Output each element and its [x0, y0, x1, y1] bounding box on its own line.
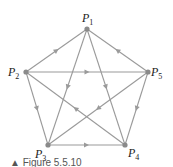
arrowhead-icon — [34, 105, 39, 111]
arrowhead-icon — [85, 69, 90, 74]
node-p4 — [122, 142, 127, 147]
node-p1 — [84, 26, 89, 31]
figure-caption: ▲ Figure 5.5.10 — [10, 157, 82, 167]
arrowhead-icon — [53, 49, 59, 54]
arrowhead-icon — [84, 142, 89, 147]
node-label-p2: P2 — [7, 65, 19, 81]
arrowhead-icon — [116, 49, 122, 54]
directed-graph: P1P2P3P4P5 — [0, 0, 173, 167]
node-label-p5: P5 — [150, 65, 162, 81]
node-label-p1: P1 — [81, 11, 93, 27]
node-p5 — [145, 69, 150, 74]
arrowhead-icon — [96, 105, 102, 110]
node-p2 — [23, 69, 28, 74]
graph-edges — [26, 29, 148, 148]
node-label-p4: P4 — [127, 146, 139, 162]
node-p3 — [45, 142, 50, 147]
arrowhead-icon — [74, 107, 80, 112]
